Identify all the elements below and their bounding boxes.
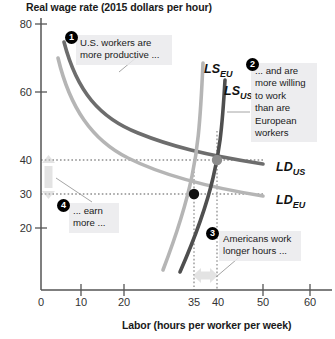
callout-4-line-2: more ...	[73, 217, 115, 229]
callout-box-3: Americans work longer hours ...	[219, 231, 301, 261]
callout-2-line-3: to work	[255, 90, 313, 102]
hours-gap-arrow	[193, 268, 218, 283]
curve-label-ld-us-text: LD	[276, 160, 293, 174]
curve-label-ls-eu-text: LS	[204, 62, 220, 76]
callout-2-line-6: workers	[255, 127, 313, 139]
y-tick-label-30: 30	[6, 188, 32, 200]
curve-label-ld-eu-sub: EU	[293, 200, 306, 210]
curve-label-ld-us-sub: US	[293, 167, 306, 177]
callout-badge-2: 2	[246, 58, 259, 71]
x-tick-label-10: 10	[70, 296, 92, 308]
curve-label-ls-us: LSUS	[224, 84, 253, 101]
callout-badge-4: 4	[57, 199, 70, 212]
eu-equilibrium-point	[189, 189, 199, 199]
x-tick-label-35: 35	[183, 296, 205, 308]
callout-2-line-1: ... and are	[255, 65, 313, 77]
callout-2-line-2: more willing	[255, 77, 313, 89]
callout-box-2: ... and are more willing to work than ar…	[251, 63, 317, 142]
x-tick-label-20: 20	[113, 296, 135, 308]
x-tick-label-50: 50	[252, 296, 274, 308]
curve-ls-eu	[163, 63, 203, 270]
callout-1-line-2: more productive ...	[80, 49, 168, 61]
curve-label-ls-eu: LSEU	[204, 62, 233, 79]
curve-label-ls-eu-sub: EU	[220, 69, 233, 79]
y-tick-label-60: 60	[6, 86, 32, 98]
curve-label-ld-eu: LDEU	[276, 193, 305, 210]
economics-labor-market-chart: Real wage rate (2015 dollars per hour)	[0, 0, 335, 339]
y-tick-label-20: 20	[6, 222, 32, 234]
curve-label-ld-eu-text: LD	[276, 193, 293, 207]
callout-badge-3: 3	[206, 227, 219, 240]
callout-badge-1: 1	[65, 31, 78, 44]
callout-box-1: U.S. workers are more productive ...	[76, 35, 172, 65]
callout-1-line-1: U.S. workers are	[80, 37, 168, 49]
y-tick-label-40: 40	[6, 154, 32, 166]
curve-label-ld-us: LDUS	[276, 160, 305, 177]
curve-ld-eu	[58, 58, 263, 196]
callout-box-4: ... earn more ...	[69, 203, 119, 233]
y-tick-label-80: 80	[6, 18, 32, 30]
callout-2-line-5: European	[255, 115, 313, 127]
us-equilibrium-point	[212, 155, 222, 165]
curve-label-ls-us-text: LS	[224, 84, 240, 98]
callout-4-line-1: ... earn	[73, 205, 115, 217]
wage-gap-arrow	[42, 155, 55, 199]
x-tick-label-0: 0	[30, 296, 52, 308]
callout-3-line-2: longer hours ...	[223, 245, 297, 257]
x-tick-label-60: 60	[299, 296, 321, 308]
x-tick-label-40: 40	[207, 296, 229, 308]
callout-2-line-4: than are	[255, 102, 313, 114]
callout-3-line-1: Americans work	[223, 233, 297, 245]
x-axis-title: Labor (hours per worker per week)	[122, 319, 291, 331]
